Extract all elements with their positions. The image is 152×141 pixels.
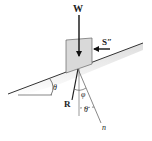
side-force-label: S″: [102, 37, 112, 47]
reaction-label: R: [64, 99, 71, 109]
friction-angle-label: φ: [81, 90, 86, 99]
weight-label: W: [73, 3, 83, 14]
diagram-canvas: W S″ R φ θ θ n: [0, 0, 152, 141]
normal-label: n: [102, 123, 106, 132]
free-body-diagram: W S″ R φ θ θ n: [0, 0, 152, 141]
normal-angle-label: θ: [84, 105, 88, 114]
incline-angle-label: θ: [53, 83, 57, 92]
